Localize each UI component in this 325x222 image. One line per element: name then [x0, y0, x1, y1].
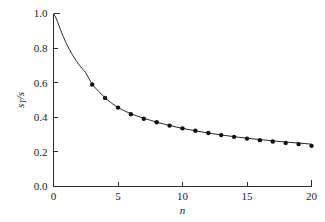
chart-figure: 05101520 0.00.20.40.60.81.0 n sT/s — [0, 0, 325, 222]
data-point-marker — [193, 129, 197, 133]
y-tick-label: 1.0 — [34, 7, 48, 19]
axes-group — [54, 14, 312, 187]
data-point-marker — [167, 123, 171, 127]
curve-path — [54, 14, 312, 145]
data-markers — [90, 82, 314, 148]
data-point-marker — [296, 142, 300, 146]
x-tick-label: 10 — [177, 190, 189, 202]
data-point-marker — [309, 144, 313, 148]
x-axis-title: n — [180, 204, 186, 216]
data-point-marker — [129, 112, 133, 116]
y-axis-title: sT/s — [14, 92, 28, 108]
data-point-marker — [142, 116, 146, 120]
y-tick-label: 0.2 — [34, 146, 48, 158]
data-point-marker — [180, 126, 184, 130]
y-tick-label: 0.4 — [34, 111, 48, 123]
data-point-marker — [219, 133, 223, 137]
data-curve — [54, 14, 312, 145]
data-point-marker — [258, 138, 262, 142]
chart-plot-area: 05101520 0.00.20.40.60.81.0 n sT/s — [0, 0, 325, 222]
y-axis-tick-labels: 0.00.20.40.60.81.0 — [34, 7, 48, 192]
data-point-marker — [206, 131, 210, 135]
data-point-marker — [155, 120, 159, 124]
x-tick-label: 20 — [306, 190, 318, 202]
data-point-marker — [271, 139, 275, 143]
x-axis-title-text: n — [180, 204, 186, 216]
data-point-marker — [103, 96, 107, 100]
y-tick-label: 0.8 — [34, 42, 48, 54]
tick-marks-group — [54, 14, 312, 187]
data-point-marker — [245, 136, 249, 140]
x-tick-label: 5 — [115, 190, 121, 202]
data-point-marker — [284, 141, 288, 145]
x-tick-label: 15 — [242, 190, 254, 202]
data-point-marker — [90, 82, 94, 86]
axis-spines — [54, 14, 312, 187]
x-tick-label: 0 — [51, 190, 57, 202]
y-tick-label: 0.6 — [34, 77, 48, 89]
y-axis-title-text: sT/s — [14, 92, 28, 108]
y-axis-title-denominator: /s — [14, 92, 26, 100]
data-point-marker — [116, 105, 120, 109]
x-axis-tick-labels: 05101520 — [51, 190, 318, 202]
data-point-marker — [232, 135, 236, 139]
y-tick-label: 0.0 — [34, 180, 48, 192]
